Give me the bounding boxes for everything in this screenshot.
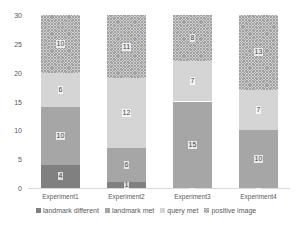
legend-swatch-icon [36, 208, 41, 213]
bar-segment-positive-image: 11 [107, 15, 146, 78]
bar-segment-landmark-met: 15 [173, 102, 212, 189]
legend-item: landmark met [105, 207, 154, 214]
legend-item: landmark different [36, 207, 99, 214]
data-label: 8 [190, 34, 196, 42]
y-tick-label: 10 [0, 127, 22, 134]
data-label: 1 [124, 181, 130, 189]
y-tick-label: 25 [0, 40, 22, 47]
data-label: 10 [254, 155, 264, 163]
bar-segment-landmark-different: 4 [41, 165, 80, 188]
y-tick-label: 15 [0, 98, 22, 105]
bar-segment-landmark-different: 1 [107, 182, 146, 188]
legend-label: landmark met [112, 207, 154, 214]
bar-segment-query-met: 7 [173, 61, 212, 101]
x-tick-label: Experiment4 [229, 193, 289, 200]
bar-segment-query-met: 12 [107, 78, 146, 147]
data-label: 11 [122, 43, 131, 51]
bar-segment-positive-image: 8 [173, 15, 212, 61]
data-label: 7 [256, 106, 262, 114]
y-tick-label: 20 [0, 69, 22, 76]
legend: landmark differentlandmark metquery metp… [36, 207, 256, 214]
bar-experiment3: 01578 [173, 0, 212, 188]
data-label: 7 [190, 77, 196, 85]
data-label: 15 [188, 141, 198, 149]
legend-label: landmark different [43, 207, 99, 214]
bar-experiment4: 010713 [239, 0, 278, 188]
legend-label: positive image [211, 207, 256, 214]
data-label: 10 [56, 132, 66, 140]
bar-experiment2: 161211 [107, 0, 146, 188]
legend-swatch-icon [204, 208, 209, 213]
x-tick-label: Experiment1 [31, 193, 91, 200]
x-tick-label: Experiment3 [163, 193, 223, 200]
legend-item: query met [160, 207, 198, 214]
bar-segment-landmark-met: 10 [239, 130, 278, 188]
bar-segment-landmark-met: 6 [107, 148, 146, 183]
legend-item: positive image [204, 207, 256, 214]
bar-segment-query-met: 6 [41, 73, 80, 108]
y-tick-label: 30 [0, 12, 22, 19]
data-label: 12 [122, 109, 132, 117]
bar-experiment1: 410610 [41, 0, 80, 188]
data-label: 6 [124, 161, 130, 169]
bar-segment-landmark-met: 10 [41, 107, 80, 165]
data-label: 10 [56, 40, 66, 48]
stacked-bar-chart: 051015202530 41061016121101578010713 Exp… [0, 0, 305, 225]
legend-label: query met [167, 207, 198, 214]
x-axis-line [28, 188, 290, 189]
bar-segment-query-met: 7 [239, 90, 278, 130]
y-tick-label: 5 [0, 156, 22, 163]
data-label: 4 [58, 172, 64, 180]
bar-segment-positive-image: 10 [41, 15, 80, 73]
x-tick-label: Experiment2 [97, 193, 157, 200]
legend-swatch-icon [105, 208, 110, 213]
data-label: 13 [254, 48, 264, 56]
y-tick-label: 0 [0, 185, 22, 192]
bar-segment-positive-image: 13 [239, 15, 278, 90]
data-label: 6 [58, 86, 64, 94]
legend-swatch-icon [160, 208, 165, 213]
